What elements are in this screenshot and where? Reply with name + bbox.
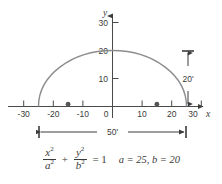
width-dimension-label: 50'	[107, 127, 118, 137]
plus-operator: +	[60, 153, 70, 165]
x-tick-labels: -30 -20 -10 0 10 20 30	[18, 109, 198, 119]
focus-point-right	[155, 102, 160, 107]
x-axis-label: x	[205, 109, 211, 119]
x-den-exponent: 2	[50, 158, 54, 166]
y-axis-label: y	[102, 8, 108, 18]
x-tick-label: 10	[137, 109, 147, 119]
ellipse-figure: x y -30 -20 -10 0 10 20 30 10 20	[0, 0, 222, 184]
width-dimension: 50'	[39, 126, 186, 138]
x-tick-label: -30	[18, 109, 31, 119]
y-tick-label: 30	[99, 18, 109, 28]
y-den-exponent: 2	[81, 158, 85, 166]
x-num-exponent: 2	[50, 145, 54, 153]
x-tick-label: 20	[167, 109, 177, 119]
height-dimension: 20'	[182, 51, 194, 104]
equation-parameters: a = 25, b = 20	[112, 154, 180, 165]
x-tick-label: -10	[77, 109, 90, 119]
x-term-fraction: x2 a2	[43, 147, 56, 171]
y-num-exponent: 2	[81, 145, 85, 153]
x-tick-label: 0	[104, 109, 109, 119]
y-term-fraction: y2 b2	[74, 147, 87, 171]
height-dimension-label: 20'	[182, 74, 193, 84]
equals-one: = 1	[90, 153, 108, 165]
ellipse-equation: x2 a2 + y2 b2 = 1 a = 25, b = 20	[0, 147, 222, 171]
y-tick-label: 10	[99, 74, 109, 84]
x-tick-label: -20	[47, 109, 60, 119]
focus-point-left	[66, 102, 71, 107]
x-tick-label: 30	[188, 109, 198, 119]
